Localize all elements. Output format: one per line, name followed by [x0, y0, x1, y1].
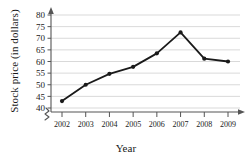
gridlines-group	[51, 15, 240, 108]
y-axis-title: Stock price (in dollars)	[8, 9, 20, 113]
y-tick-labels-group: 404550556065707580	[36, 10, 46, 113]
y-tick-label: 50	[36, 80, 46, 90]
chart-plot-area: 404550556065707580 200220032004200520062…	[0, 0, 252, 157]
y-axis-arrowhead-icon	[48, 7, 54, 14]
data-point-marker	[60, 99, 64, 103]
y-tick-label: 45	[36, 92, 46, 102]
x-axis-arrowhead-icon	[238, 109, 245, 115]
data-point-marker	[107, 72, 111, 76]
data-series-line	[62, 32, 228, 101]
y-tick-label: 40	[36, 103, 46, 113]
data-point-marker	[202, 57, 206, 61]
data-point-marker	[226, 59, 230, 63]
data-point-marker	[84, 83, 88, 87]
x-tick-labels-group: 20022003200420052006200720082009	[54, 120, 236, 129]
y-tick-label: 60	[36, 57, 46, 67]
x-tick-label: 2002	[54, 120, 70, 129]
x-tick-marks-group	[62, 112, 228, 117]
x-tick-label: 2007	[173, 120, 189, 129]
y-tick-label: 75	[36, 22, 46, 32]
data-point-marker	[131, 65, 135, 69]
y-tick-label: 70	[36, 33, 46, 43]
y-tick-label: 55	[36, 68, 46, 78]
x-tick-label: 2006	[149, 120, 165, 129]
y-tick-label: 80	[36, 10, 46, 20]
data-point-marker	[178, 30, 182, 34]
stock-price-line-chart: 404550556065707580 200220032004200520062…	[0, 0, 252, 157]
x-axis-title: Year	[116, 142, 137, 154]
y-tick-label: 65	[36, 45, 46, 55]
x-tick-label: 2004	[101, 120, 117, 129]
x-tick-label: 2009	[220, 120, 236, 129]
x-tick-label: 2005	[125, 120, 141, 129]
x-axis-title-wrapper: Year	[0, 138, 252, 156]
axis-break-zigzag-icon	[45, 108, 49, 120]
data-point-marker	[155, 51, 159, 55]
x-tick-label: 2003	[78, 120, 94, 129]
x-tick-label: 2008	[196, 120, 212, 129]
data-point-markers-group	[60, 30, 230, 103]
y-axis-title-wrapper: Stock price (in dollars)	[7, 1, 21, 121]
